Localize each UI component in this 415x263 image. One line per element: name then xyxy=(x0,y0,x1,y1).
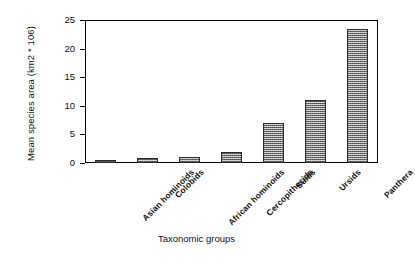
x-tick-label-text: Asian hominoids xyxy=(140,167,196,223)
bar xyxy=(305,100,326,163)
y-tick-label: 15 xyxy=(53,72,75,82)
x-tick-label: Suids xyxy=(294,167,318,191)
y-axis-title: Mean species area (km2 * 106) xyxy=(25,9,36,179)
bars-group xyxy=(85,20,378,163)
x-tick-label: Panthera xyxy=(382,167,415,200)
y-tick-label: 25 xyxy=(53,15,75,25)
y-tick-label: 10 xyxy=(53,101,75,111)
x-axis-title: Taxonomic groups xyxy=(0,233,393,244)
bar xyxy=(263,123,284,163)
y-tick-label: 5 xyxy=(53,129,75,139)
bar xyxy=(347,29,368,163)
bar xyxy=(221,152,242,163)
x-tick-label-text: Panthera xyxy=(382,167,415,200)
y-tick-label: 20 xyxy=(53,44,75,54)
x-tick-label-text: Suids xyxy=(294,167,318,191)
x-tick-label: Asian hominoids xyxy=(140,167,196,223)
x-tick-label-text: Ursids xyxy=(337,167,363,193)
y-tick-label: 0 xyxy=(53,158,75,168)
x-tick-label: Ursids xyxy=(337,167,363,193)
x-axis-category-labels: Asian hominoidsColobidsAfrican hominoids… xyxy=(85,163,378,225)
